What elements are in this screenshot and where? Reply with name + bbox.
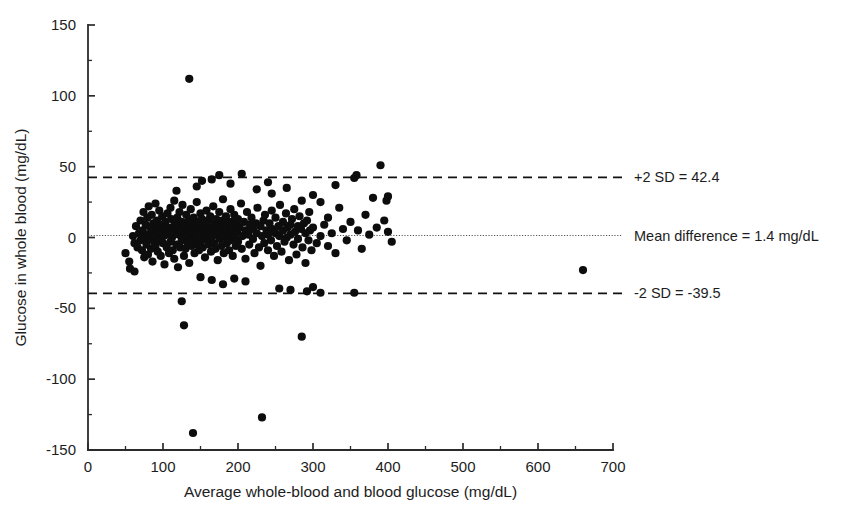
data-point xyxy=(358,245,366,253)
data-point xyxy=(215,171,223,179)
data-point xyxy=(275,284,283,292)
data-point xyxy=(276,201,284,209)
data-point xyxy=(369,194,377,202)
data-point xyxy=(288,215,296,223)
data-point xyxy=(253,185,261,193)
x-tick-label: 600 xyxy=(525,458,550,475)
data-point xyxy=(384,228,392,236)
data-point xyxy=(313,239,321,247)
x-tick-label: 100 xyxy=(150,458,175,475)
mean-difference-label: Mean difference = 1.4 mg/dL xyxy=(634,228,819,244)
data-point xyxy=(352,171,360,179)
data-point xyxy=(201,253,209,261)
data-point xyxy=(166,204,174,212)
x-tick-label: 500 xyxy=(450,458,475,475)
scatter-plot-canvas: 0100200300400500600700-150-100-500501001… xyxy=(0,0,851,516)
data-point xyxy=(238,245,246,253)
data-point xyxy=(346,218,354,226)
data-point xyxy=(130,267,138,275)
data-point xyxy=(253,204,261,212)
data-point xyxy=(215,208,223,216)
y-tick-label: -100 xyxy=(46,370,76,387)
data-point xyxy=(294,235,302,243)
lower-limit-of-agreement-label: -2 SD = -39.5 xyxy=(634,285,721,301)
data-point xyxy=(388,238,396,246)
data-point xyxy=(307,246,315,254)
data-point xyxy=(157,252,165,260)
data-point xyxy=(180,252,188,260)
data-point xyxy=(295,212,303,220)
data-point xyxy=(268,206,276,214)
y-tick-label: 150 xyxy=(51,16,76,33)
data-point xyxy=(350,289,358,297)
upper-limit-of-agreement-label: +2 SD = 42.4 xyxy=(634,169,719,185)
data-point xyxy=(303,216,311,224)
data-point xyxy=(241,277,249,285)
data-point xyxy=(219,280,227,288)
x-tick-label: 300 xyxy=(300,458,325,475)
data-point xyxy=(219,195,227,203)
data-point xyxy=(305,208,313,216)
data-point xyxy=(304,236,312,244)
reference-line-annotations-group: +2 SD = 42.4Mean difference = 1.4 mg/dL-… xyxy=(634,169,819,301)
data-point xyxy=(309,191,317,199)
y-axis-title: Glucose in whole blood (mg/dL) xyxy=(12,129,29,347)
data-point xyxy=(331,181,339,189)
data-point xyxy=(290,205,298,213)
data-point xyxy=(148,257,156,265)
data-point xyxy=(256,262,264,270)
data-point xyxy=(170,197,178,205)
data-point xyxy=(331,249,339,257)
data-point xyxy=(376,161,384,169)
data-point xyxy=(261,211,269,219)
data-point xyxy=(328,229,336,237)
data-point xyxy=(286,286,294,294)
data-point xyxy=(170,255,178,263)
y-tick-label: 100 xyxy=(51,87,76,104)
data-point xyxy=(125,257,133,265)
data-point xyxy=(301,259,309,267)
x-tick-label: 700 xyxy=(600,458,625,475)
data-point xyxy=(241,255,249,263)
data-point xyxy=(335,204,343,212)
data-point xyxy=(285,256,293,264)
data-point xyxy=(208,175,216,183)
data-point xyxy=(229,252,237,260)
data-point xyxy=(189,429,197,437)
y-tick-label: -150 xyxy=(46,441,76,458)
data-point xyxy=(316,232,324,240)
y-tick-label: 0 xyxy=(68,229,76,246)
data-point xyxy=(185,259,193,267)
data-points-group xyxy=(121,75,587,437)
data-point xyxy=(324,214,332,222)
data-point xyxy=(238,170,246,178)
data-point xyxy=(380,216,388,224)
data-point xyxy=(309,223,317,231)
data-point xyxy=(283,184,291,192)
data-point xyxy=(303,287,311,295)
data-point xyxy=(339,225,347,233)
data-point xyxy=(384,192,392,200)
data-point xyxy=(160,260,168,268)
data-point xyxy=(198,177,206,185)
data-point xyxy=(196,273,204,281)
data-point xyxy=(282,209,290,217)
y-tick-label: -50 xyxy=(54,299,76,316)
data-point xyxy=(361,211,369,219)
data-point xyxy=(298,197,306,205)
data-point xyxy=(237,199,245,207)
data-point xyxy=(214,256,222,264)
data-point xyxy=(373,223,381,231)
data-point xyxy=(178,201,186,209)
data-point xyxy=(316,198,324,206)
data-point xyxy=(151,199,159,207)
x-tick-label: 400 xyxy=(375,458,400,475)
data-point xyxy=(193,198,201,206)
data-point xyxy=(298,333,306,341)
data-point xyxy=(268,189,276,197)
data-point xyxy=(324,242,332,250)
data-point xyxy=(270,252,278,260)
data-point xyxy=(230,274,238,282)
data-point xyxy=(365,231,373,239)
data-point xyxy=(264,246,272,254)
